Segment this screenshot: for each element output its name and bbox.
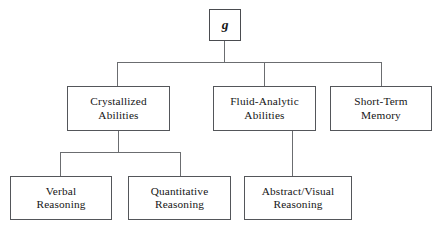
- node-quantitative-reasoning[interactable]: Quantitative Reasoning: [128, 176, 231, 220]
- node-verbal-reasoning-label: Verbal Reasoning: [13, 185, 109, 212]
- edge-bus-to-short-term-memory: [381, 62, 382, 86]
- node-short-term-memory-line2: Memory: [361, 109, 401, 121]
- node-short-term-memory-line1: Short-Term: [354, 95, 407, 107]
- edge-fluid-analytic-to-abstract-visual: [292, 131, 293, 176]
- edge-bus-to-crystallized: [117, 62, 118, 86]
- node-quantitative-reasoning-line2: Reasoning: [155, 198, 204, 210]
- edge-crystallized-stem: [118, 131, 119, 152]
- node-fluid-analytic-abilities-line1: Fluid-Analytic: [230, 95, 299, 107]
- node-abstract-visual-reasoning-line1: Abstract/Visual: [262, 185, 334, 197]
- node-crystallized-abilities[interactable]: Crystallized Abilities: [67, 86, 170, 131]
- node-abstract-visual-reasoning[interactable]: Abstract/Visual Reasoning: [244, 176, 352, 220]
- node-crystallized-abilities-label: Crystallized Abilities: [70, 95, 167, 122]
- node-quantitative-reasoning-line1: Quantitative: [151, 185, 209, 197]
- edge-bus-to-verbal-reasoning: [60, 152, 61, 176]
- node-verbal-reasoning[interactable]: Verbal Reasoning: [10, 176, 112, 220]
- node-g[interactable]: g: [209, 9, 241, 41]
- node-verbal-reasoning-line2: Reasoning: [36, 198, 85, 210]
- node-short-term-memory[interactable]: Short-Term Memory: [330, 86, 432, 131]
- node-short-term-memory-label: Short-Term Memory: [333, 95, 429, 122]
- edge-g-stem: [224, 41, 225, 63]
- node-abstract-visual-reasoning-label: Abstract/Visual Reasoning: [247, 185, 349, 212]
- node-quantitative-reasoning-label: Quantitative Reasoning: [131, 185, 228, 212]
- edge-level3-bus: [60, 152, 180, 153]
- node-verbal-reasoning-line1: Verbal: [46, 185, 76, 197]
- node-fluid-analytic-abilities[interactable]: Fluid-Analytic Abilities: [213, 86, 316, 131]
- node-abstract-visual-reasoning-line2: Reasoning: [273, 198, 322, 210]
- node-crystallized-abilities-line2: Abilities: [98, 109, 138, 121]
- edge-bus-to-fluid-analytic: [264, 62, 265, 86]
- node-crystallized-abilities-line1: Crystallized: [90, 95, 146, 107]
- edge-bus-to-quantitative-reasoning: [180, 152, 181, 176]
- intelligence-hierarchy-diagram: g Crystallized Abilities Fluid-Analytic …: [0, 0, 440, 226]
- node-g-label: g: [212, 17, 238, 33]
- node-fluid-analytic-abilities-line2: Abilities: [244, 109, 284, 121]
- edge-level2-bus: [117, 62, 382, 63]
- node-fluid-analytic-abilities-label: Fluid-Analytic Abilities: [216, 95, 313, 122]
